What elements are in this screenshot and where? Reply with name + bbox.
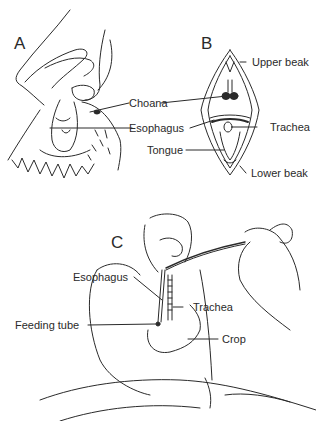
label-upper-beak: Upper beak xyxy=(252,56,309,68)
label-tongue: Tongue xyxy=(147,144,183,156)
panel-label-c: C xyxy=(111,234,123,252)
label-esophagus-c: Esophagus xyxy=(73,271,128,283)
label-trachea-ab: Trachea xyxy=(270,121,310,133)
label-crop: Crop xyxy=(222,333,246,345)
panel-label-a: A xyxy=(14,35,25,53)
label-esophagus-ab: Esophagus xyxy=(129,122,184,134)
panel-c-drawing xyxy=(40,214,316,421)
panel-label-b: B xyxy=(201,35,212,53)
label-lower-beak: Lower beak xyxy=(251,167,308,179)
label-trachea-c: Trachea xyxy=(193,301,233,313)
label-choana: Choana xyxy=(129,97,168,109)
label-feeding-tube: Feeding tube xyxy=(15,319,79,331)
panel-b-drawing xyxy=(201,50,259,175)
leader-lines-ab xyxy=(50,62,257,173)
diagram: A B C Choana Esophagus Tongue Upper beak… xyxy=(0,0,316,421)
